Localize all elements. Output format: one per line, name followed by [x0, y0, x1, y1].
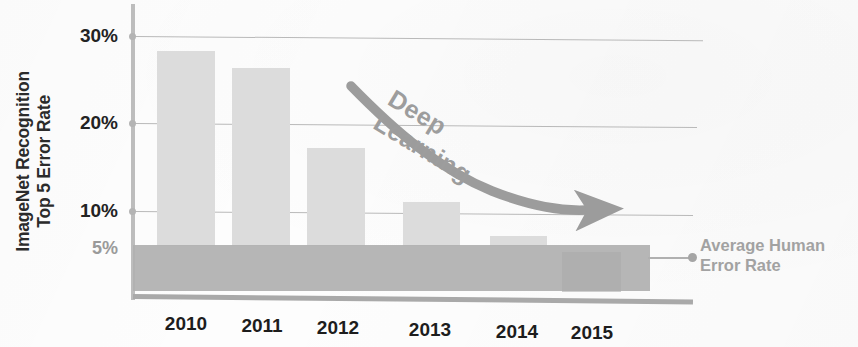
x-tick-label-2010: 2010 [146, 313, 226, 335]
x-tick-label-2014: 2014 [477, 321, 557, 343]
x-tick-label-2015: 2015 [552, 322, 632, 344]
bar-2012 [307, 148, 365, 246]
deep-learning-arrow [0, 0, 858, 347]
x-tick-label-2013: 2013 [390, 319, 470, 341]
y-tick-dot-10 [129, 208, 136, 215]
bar-2013 [403, 202, 460, 246]
y-tick-label-30: 30% [48, 25, 118, 47]
gridline-30 [135, 36, 703, 41]
bar-2011 [232, 68, 290, 246]
bar-2010 [157, 51, 215, 246]
y-tick-dot-30 [129, 33, 136, 40]
y-tick-label-20: 20% [48, 112, 118, 134]
x-tick-label-2011: 2011 [222, 315, 302, 337]
bar-2015 [562, 252, 621, 292]
y-tick-label-10: 10% [48, 200, 118, 222]
x-tick-label-2012: 2012 [298, 317, 378, 339]
human-error-marker-dot [688, 253, 697, 262]
y-tick-label-5: 5% [48, 238, 118, 259]
average-human-error-rate-label: Average Human Error Rate [700, 236, 825, 276]
chart-canvas: ImageNet Recognition Top 5 Error Rate 30… [0, 0, 858, 347]
plot-area: 30% 20% 10% 5% 2010 2011 2012 2013 2014 … [0, 0, 858, 347]
human-error-leader-line [648, 257, 690, 259]
y-tick-dot-20 [129, 120, 136, 127]
x-axis-line [133, 294, 693, 304]
